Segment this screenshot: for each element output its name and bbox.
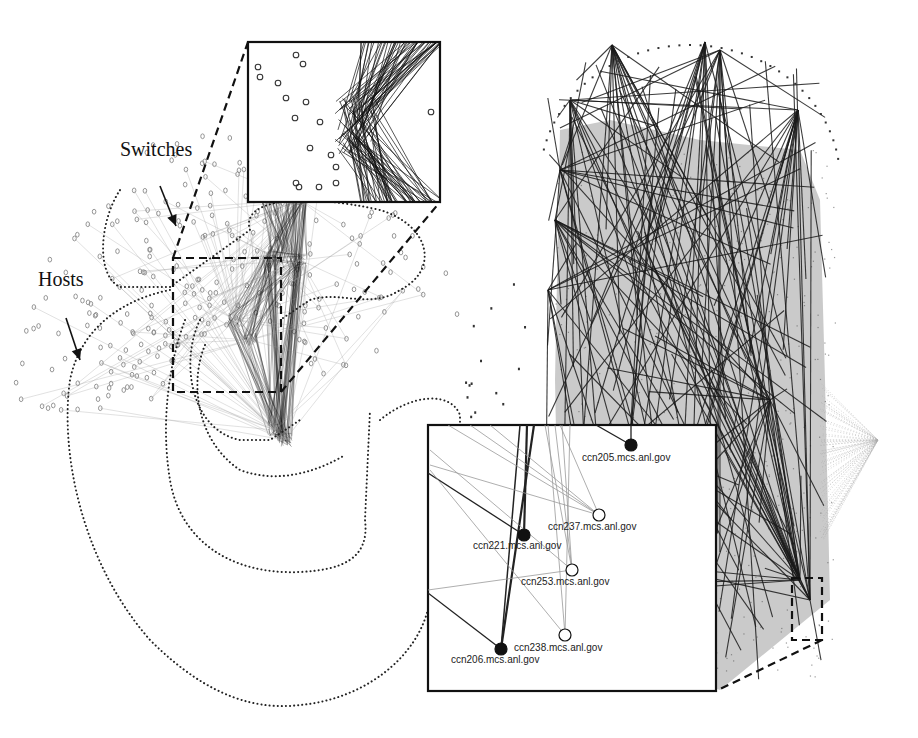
boundary-dot [731,49,733,51]
stray-node [480,360,482,363]
host-node [421,292,425,297]
node-dot [763,178,764,179]
boundary-dot [584,83,586,85]
host-node [355,261,359,266]
node-dot [723,487,724,488]
node-dot [777,669,778,670]
node-dot [726,551,727,552]
stray-node [513,283,515,286]
stray-node [465,381,467,384]
node-dot [796,247,797,248]
boundary-dot [668,45,670,47]
host-node [357,314,361,319]
node-dot [732,193,733,194]
node-dot [790,413,791,414]
light-edge [824,401,878,440]
node-dot [832,639,833,640]
node-dot [813,648,814,649]
host-node [145,375,149,380]
host-node [302,321,306,326]
arrow-head-icon [72,348,81,360]
host-node [228,136,232,141]
node-dot [729,489,730,490]
node-dot [797,325,798,326]
host-node [37,324,41,329]
node-dot [827,198,828,199]
node-dot [820,513,821,514]
node-dot [767,465,768,466]
node-dot [778,411,779,412]
node-dot [741,243,742,244]
node-dot [728,214,729,215]
host-node [151,274,155,279]
node-dot [805,636,806,637]
node-dot [684,154,685,155]
host-label: ccn205.mcs.anl.gov [582,452,670,463]
node-dot [828,395,829,396]
node-dot [750,506,751,507]
node-dot [726,658,727,659]
node-dot [813,261,814,262]
node-dot [813,150,814,151]
node-dot [815,251,816,252]
node-dot [772,456,773,457]
boundary-dot [778,70,780,72]
boundary-dot [558,113,560,115]
node-dot [828,242,829,243]
light-edge [822,411,878,440]
node-dot [753,639,754,640]
node-dot [743,616,744,617]
stray-node [473,325,475,328]
node-dot [561,324,562,325]
light-edge [822,440,878,504]
node-dot [782,439,783,440]
light-edge [822,388,878,440]
node-dot [754,555,755,556]
node-dot [568,332,569,333]
switches-label: Switches [120,138,192,161]
inset-top-zoom [248,42,445,202]
host-node [124,348,128,353]
host-node [140,288,144,293]
boundary-dot [820,113,822,115]
node-dot [828,355,829,356]
node-dot [822,177,823,178]
host-label: ccn237.mcs.anl.gov [548,521,636,532]
node-dot [770,191,771,192]
boundary-dot [678,44,680,46]
node-dot [790,377,791,378]
host-node [74,294,78,299]
node-dot [777,294,778,295]
host-edge [101,363,275,430]
node-dot [827,562,828,563]
host-node [57,331,61,336]
node-dot [815,676,816,677]
boundary-dot [769,65,771,67]
host-edge [300,260,346,365]
boundary-dot [700,44,702,46]
node-dot [577,349,578,350]
node-dot [597,268,598,269]
host-node [44,295,48,300]
node-dot [829,267,830,268]
stray-node [502,403,504,406]
node-dot [816,152,817,153]
node-dot [769,476,770,477]
boundary-dot [637,52,639,54]
node-dot [733,660,734,661]
node-dot [778,505,779,506]
node-dot [833,559,834,560]
node-dot [681,163,682,164]
node-dot [641,379,642,380]
node-dot [787,609,788,610]
node-dot [731,654,732,655]
stray-node [524,326,526,329]
boundary-dot [837,158,839,160]
host-node [148,254,152,259]
node-dot [824,342,825,343]
host-node [176,202,180,207]
node-dot [636,236,637,237]
boundary-dot [592,76,594,78]
node-dot [781,631,782,632]
node-dot [820,379,821,380]
